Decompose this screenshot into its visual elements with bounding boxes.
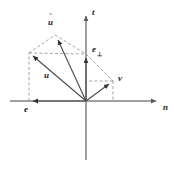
vector-v — [86, 84, 109, 101]
tilde-accent-icon: ˜ — [48, 13, 53, 21]
vector-diagram-figure: n t e e⊥ u ˜u v — [0, 0, 174, 175]
axes — [10, 16, 156, 160]
vector-e-perp-label: e⊥ — [92, 45, 101, 56]
vector-u-tilde — [58, 40, 86, 101]
vector-e-label: e — [24, 105, 28, 114]
t-axis-label: t — [92, 8, 95, 17]
construction-line-u-to-eperp — [29, 53, 86, 54]
figure-canvas — [0, 0, 174, 175]
vector-u-tilde-label: ˜u — [48, 18, 53, 27]
construction-line-eperp-to-v — [86, 54, 113, 81]
n-axis-label: n — [163, 103, 168, 112]
vector-u-label: u — [44, 71, 49, 80]
vector-u — [33, 56, 86, 101]
construction-line-u-to-utilde — [29, 35, 55, 53]
perpendicular-icon: ⊥ — [97, 51, 102, 57]
vector-v-label: v — [118, 74, 122, 83]
vector-e-perp-label-base: e — [92, 44, 96, 54]
